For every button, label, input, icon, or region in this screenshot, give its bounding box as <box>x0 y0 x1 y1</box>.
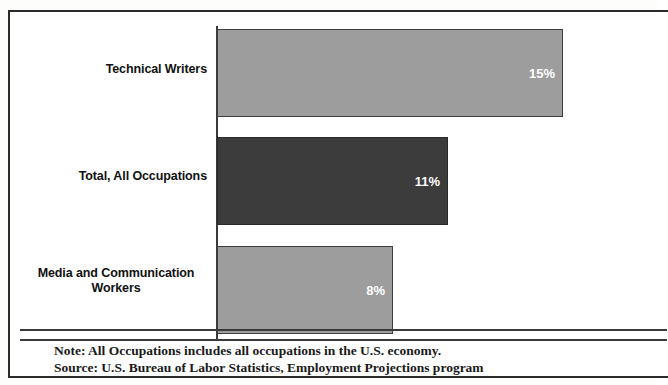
bar-value-media-and-communication-workers: 8% <box>366 283 385 298</box>
bar-total-all-occupations[interactable]: 11% <box>217 137 448 225</box>
bar-row: Total, All Occupations 11% <box>20 129 667 234</box>
category-label-line1: Media and Communication <box>38 266 195 280</box>
figure-frame: Technical Writers 15% Total, All Occupat… <box>8 10 668 378</box>
bar-media-and-communication-workers[interactable]: 8% <box>217 246 393 334</box>
bar-technical-writers[interactable]: 15% <box>217 29 563 117</box>
category-label-total-all-occupations: Total, All Occupations <box>27 169 207 184</box>
plot-area: Technical Writers 15% Total, All Occupat… <box>20 24 667 339</box>
bar-row: Technical Writers 15% <box>20 24 667 129</box>
value-axis-baseline <box>20 339 667 341</box>
note-line: Note: All Occupations includes all occup… <box>54 342 654 359</box>
category-label-technical-writers: Technical Writers <box>27 62 207 77</box>
bar-value-technical-writers: 15% <box>529 66 555 81</box>
category-label-media-and-communication-workers: Media and Communication Workers <box>23 266 209 296</box>
bar-value-total-all-occupations: 11% <box>415 174 440 189</box>
bar-row: Media and Communication Workers 8% <box>20 234 667 339</box>
source-line: Source: U.S. Bureau of Labor Statistics,… <box>54 359 654 376</box>
footnotes-block: Note: All Occupations includes all occup… <box>54 342 654 376</box>
footnote-divider <box>20 329 667 331</box>
category-label-line2: Workers <box>23 281 209 296</box>
